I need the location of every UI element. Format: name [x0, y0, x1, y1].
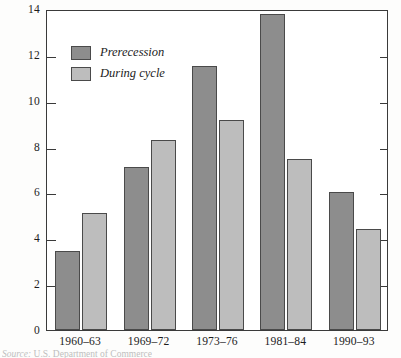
- y-axis-tick-label: 0: [0, 325, 40, 337]
- bar-prerecession: [329, 192, 354, 330]
- y-axis-tick-label: 8: [0, 142, 40, 154]
- y-axis-tick-label: 6: [0, 188, 40, 200]
- y-axis-tick-label: 2: [0, 279, 40, 291]
- legend-swatch-during-cycle: [71, 67, 91, 81]
- x-axis-tick-label: 1960–63: [59, 336, 101, 348]
- y-axis-tick-label: 12: [0, 50, 40, 62]
- x-axis-tick-label: 1981–84: [265, 336, 307, 348]
- bar-during-cycle: [356, 229, 381, 330]
- bar-prerecession: [124, 167, 149, 330]
- source-note: Source: U.S. Department of Commerce: [2, 349, 152, 358]
- legend-item: During cycle: [71, 65, 165, 82]
- bar-during-cycle: [219, 120, 244, 330]
- bar-during-cycle: [151, 140, 176, 330]
- legend-label-during-cycle: During cycle: [100, 67, 165, 80]
- y-axis-tick-label: 4: [0, 234, 40, 246]
- bar-during-cycle: [287, 159, 312, 330]
- bar-prerecession: [192, 66, 217, 330]
- bar-chart-figure: 02468101214 Prerecession During cycle 19…: [0, 0, 401, 358]
- bar-prerecession: [260, 14, 285, 330]
- source-prefix: Source:: [2, 349, 31, 358]
- legend-swatch-prerecession: [71, 46, 91, 60]
- source-text: U.S. Department of Commerce: [34, 349, 152, 358]
- y-axis-tick-label: 10: [0, 96, 40, 108]
- y-axis-tick-label: 14: [0, 4, 40, 16]
- x-axis-tick-label: 1969–72: [128, 336, 170, 348]
- legend-item: Prerecession: [71, 44, 165, 61]
- plot-area: Prerecession During cycle: [46, 10, 388, 331]
- x-axis-tick-label: 1973–76: [196, 336, 238, 348]
- x-axis-tick-label: 1990–93: [333, 336, 375, 348]
- legend-label-prerecession: Prerecession: [100, 46, 164, 59]
- bar-prerecession: [55, 251, 80, 330]
- bar-during-cycle: [82, 213, 107, 330]
- legend: Prerecession During cycle: [71, 44, 165, 86]
